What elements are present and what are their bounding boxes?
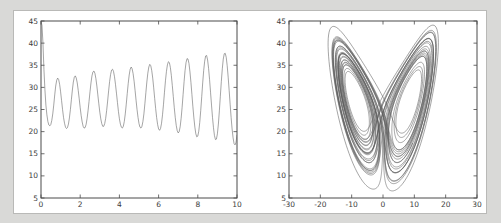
y-tick-label: 25 xyxy=(276,105,286,114)
x-tick-label: 0 xyxy=(39,200,44,209)
y-tick-label: 40 xyxy=(28,39,38,48)
x-tick-label: 20 xyxy=(441,200,451,209)
phase-portrait-axes: -30-20-10010203051015202530354045 xyxy=(254,11,488,215)
y-tick-label: 35 xyxy=(276,61,286,70)
y-tick-label: 45 xyxy=(28,17,38,26)
x-tick-label: -10 xyxy=(346,200,358,209)
y-tick-label: 45 xyxy=(276,17,286,26)
x-tick-label: 0 xyxy=(381,200,386,209)
y-tick-label: 10 xyxy=(276,171,286,180)
x-tick-label: 10 xyxy=(410,200,420,209)
chart-panel-time-series: 024681051015202530354045 xyxy=(14,11,254,215)
y-tick-label: 15 xyxy=(28,149,38,158)
x-tick-label: 8 xyxy=(195,200,200,209)
y-tick-label: 5 xyxy=(33,194,38,203)
phase-portrait-trace xyxy=(328,25,438,191)
x-tick-label: -20 xyxy=(314,200,326,209)
x-tick-label: 6 xyxy=(156,200,161,209)
x-tick-label: 30 xyxy=(472,200,482,209)
y-tick-label: 20 xyxy=(28,127,38,136)
chart-panel-phase-portrait: -30-20-10010203051015202530354045 xyxy=(254,11,488,215)
y-tick-label: 40 xyxy=(276,39,286,48)
figure-canvas: 024681051015202530354045 -30-20-10010203… xyxy=(13,10,487,214)
x-tick-label: 4 xyxy=(117,200,122,209)
x-tick-label: 10 xyxy=(232,200,242,209)
y-tick-label: 10 xyxy=(28,171,38,180)
x-tick-label: 2 xyxy=(78,200,83,209)
y-tick-label: 30 xyxy=(28,83,38,92)
y-tick-label: 35 xyxy=(28,61,38,70)
time-series-trace xyxy=(41,21,237,145)
y-tick-label: 20 xyxy=(276,127,286,136)
y-tick-label: 25 xyxy=(28,105,38,114)
y-tick-label: 5 xyxy=(281,194,286,203)
time-series-axes: 024681051015202530354045 xyxy=(14,11,254,215)
y-tick-label: 30 xyxy=(276,83,286,92)
y-tick-label: 15 xyxy=(276,149,286,158)
time-series-tick-labels: 024681051015202530354045 xyxy=(28,17,242,209)
